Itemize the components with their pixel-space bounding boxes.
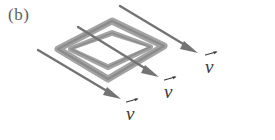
velocity-arrow-bottom-head xyxy=(103,87,121,99)
vector-arrow-accent-icon xyxy=(164,75,177,82)
velocity-label-top-glyph: v xyxy=(205,57,213,76)
panel-label: (b) xyxy=(8,6,29,23)
velocity-label-bottom-text: v xyxy=(126,103,134,124)
figure-panel-b: (b) v v v xyxy=(0,0,275,140)
velocity-label-middle: v xyxy=(164,82,172,101)
velocity-label-top: v xyxy=(205,57,213,76)
figure-graphics xyxy=(0,0,275,140)
velocity-label-middle-text: v xyxy=(164,81,172,102)
velocity-label-top-text: v xyxy=(205,56,213,77)
velocity-label-bottom-glyph: v xyxy=(126,104,134,123)
velocity-label-bottom: v xyxy=(126,104,134,123)
velocity-label-middle-glyph: v xyxy=(164,82,172,101)
vector-arrow-accent-icon xyxy=(126,97,139,104)
vector-arrow-accent-icon xyxy=(205,50,218,57)
